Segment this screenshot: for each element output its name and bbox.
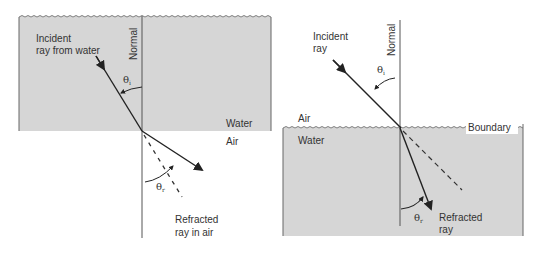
air-label: Air bbox=[226, 136, 239, 147]
incident-label-line1: Incident bbox=[36, 33, 71, 44]
refracted-label-line2: ray bbox=[439, 224, 453, 235]
refracted-label-line1: Refracted bbox=[175, 214, 218, 225]
theta-r-arc bbox=[145, 166, 173, 182]
incident-ray-arrow bbox=[333, 60, 345, 72]
air-label: Air bbox=[298, 113, 311, 124]
refracted-label-line1: Refracted bbox=[439, 212, 482, 223]
water-label: Water bbox=[226, 118, 253, 129]
boundary-label: Boundary bbox=[468, 122, 511, 133]
incident-label-line2: ray bbox=[313, 43, 327, 54]
panel-air-to-water: Incident ray Normal θi Air Boundary Wate… bbox=[283, 20, 523, 236]
panel-water-to-air: Incident ray from water Normal θi Water … bbox=[19, 16, 271, 239]
refracted-label-line2: ray in air bbox=[175, 227, 214, 238]
incident-label-line2: ray from water bbox=[36, 45, 101, 56]
refracted-ray bbox=[142, 131, 202, 170]
normal-label: Normal bbox=[128, 28, 139, 60]
water-label: Water bbox=[298, 135, 325, 146]
theta-r-label: θr bbox=[156, 181, 165, 193]
theta-i-label: θi bbox=[377, 64, 385, 76]
incident-label-line1: Incident bbox=[313, 31, 348, 42]
theta-i-arc bbox=[375, 78, 395, 89]
normal-label: Normal bbox=[386, 24, 397, 56]
